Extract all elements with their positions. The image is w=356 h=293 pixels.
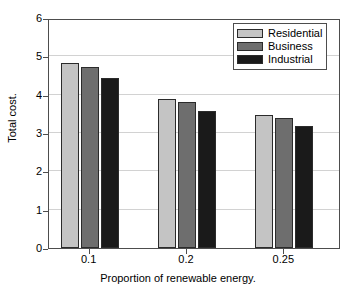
y-tick-label: 0	[36, 243, 42, 254]
bar	[255, 115, 273, 248]
y-tick-label: 1	[36, 205, 42, 216]
legend-swatch	[237, 29, 263, 38]
legend-label: Industrial	[268, 54, 313, 65]
bar	[178, 102, 196, 248]
y-tick-label: 5	[36, 51, 42, 62]
y-axis-title: Total cost.	[6, 78, 18, 158]
bar	[275, 118, 293, 248]
bar	[158, 99, 176, 248]
bar-chart-figure: 0123456 Total cost. Proportion of renewa…	[0, 0, 356, 293]
x-tick-label: 0.2	[156, 253, 216, 265]
legend-item: Business	[237, 40, 322, 53]
bar	[295, 126, 313, 248]
legend: ResidentialBusinessIndustrial	[233, 23, 327, 70]
y-tick-label: 4	[36, 90, 42, 101]
legend-label: Business	[268, 41, 313, 52]
bar	[198, 111, 216, 248]
x-tick-label: 0.1	[59, 253, 119, 265]
bar	[101, 78, 119, 248]
y-tick-label: 2	[36, 166, 42, 177]
legend-swatch	[237, 42, 263, 51]
bar	[81, 67, 99, 248]
y-tick-label: 6	[36, 13, 42, 24]
bar	[61, 63, 79, 248]
y-tick-label: 3	[36, 128, 42, 139]
legend-swatch	[237, 55, 263, 64]
legend-item: Industrial	[237, 53, 322, 66]
legend-item: Residential	[237, 27, 322, 40]
y-tick-mark	[43, 249, 48, 250]
x-axis-title: Proportion of renewable energy.	[0, 272, 356, 285]
x-tick-label: 0.25	[253, 253, 313, 265]
legend-label: Residential	[268, 28, 322, 39]
